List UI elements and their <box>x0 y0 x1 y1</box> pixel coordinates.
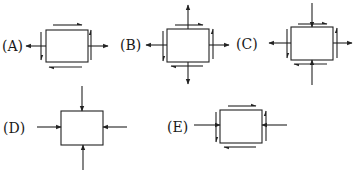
diagram-e <box>194 106 287 147</box>
stress-diagrams <box>0 0 353 173</box>
diagram-c <box>269 3 352 85</box>
diagram-a <box>26 25 108 67</box>
diagram-b <box>146 5 229 84</box>
diagram-d <box>37 86 127 170</box>
